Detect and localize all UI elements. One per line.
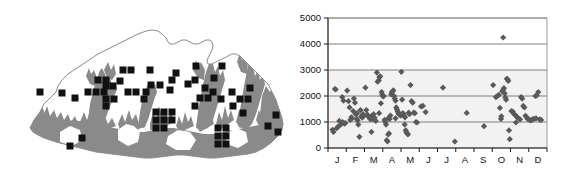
x-tick-label: O: [498, 154, 505, 165]
record-square: [223, 125, 230, 132]
distribution-map-panel: [0, 0, 290, 175]
x-tick-label: J: [426, 154, 431, 165]
record-square: [173, 70, 180, 77]
record-square: [275, 129, 282, 136]
x-tick-label: A: [462, 154, 469, 165]
record-square: [141, 96, 148, 103]
record-square: [161, 117, 168, 124]
record-square: [103, 103, 110, 110]
y-tick-label: 5000: [300, 12, 321, 23]
record-square: [197, 95, 204, 102]
record-square: [133, 89, 140, 96]
record-square: [125, 89, 132, 96]
record-square: [103, 83, 110, 90]
record-square: [219, 63, 226, 70]
x-tick-label: A: [389, 154, 396, 165]
y-tick-label: 2000: [300, 90, 321, 101]
record-square: [192, 77, 199, 84]
record-square: [85, 89, 92, 96]
record-square: [211, 75, 218, 82]
record-square: [245, 96, 252, 103]
record-square: [93, 89, 100, 96]
record-square: [205, 95, 212, 102]
figure-container: 010002000300040005000 JFMAMJJASOND: [0, 0, 562, 175]
elevation-month-scatter-panel: 010002000300040005000 JFMAMJJASOND: [290, 0, 562, 175]
record-square: [72, 95, 79, 102]
record-square: [230, 103, 237, 110]
bhutan-distribution-map: [0, 0, 290, 175]
record-square: [161, 109, 168, 116]
record-square: [120, 67, 127, 74]
record-square: [157, 82, 164, 89]
y-tick-label: 0: [316, 142, 321, 153]
record-square: [143, 89, 150, 96]
elevation-by-month-scatter: 010002000300040005000 JFMAMJJASOND: [290, 0, 562, 175]
record-square: [240, 110, 247, 117]
record-square: [117, 78, 124, 85]
record-square: [169, 117, 176, 124]
record-square: [153, 125, 160, 132]
x-tick-label: S: [480, 154, 486, 165]
record-square: [103, 77, 110, 84]
record-square: [229, 89, 236, 96]
y-tick-label: 4000: [300, 38, 321, 49]
record-square: [153, 117, 160, 124]
x-tick-label: D: [534, 154, 541, 165]
record-square: [185, 81, 192, 88]
record-square: [167, 87, 174, 94]
record-square: [110, 83, 117, 90]
record-square: [192, 103, 199, 110]
record-square: [37, 89, 44, 96]
record-square: [215, 141, 222, 148]
record-square: [237, 96, 244, 103]
record-square: [101, 89, 108, 96]
x-tick-label: F: [352, 154, 358, 165]
record-square: [67, 143, 74, 150]
record-square: [215, 125, 222, 132]
record-square: [169, 77, 176, 84]
record-square: [215, 133, 222, 140]
record-square: [273, 112, 280, 119]
x-tick-label: M: [406, 154, 414, 165]
record-square: [103, 96, 110, 103]
record-square: [59, 90, 66, 97]
record-square: [111, 96, 118, 103]
record-square: [148, 82, 155, 89]
record-square: [265, 123, 272, 130]
record-square: [223, 133, 230, 140]
record-square: [153, 109, 160, 116]
x-tick-label: N: [516, 154, 523, 165]
record-square: [247, 85, 254, 92]
x-tick-label: J: [444, 154, 449, 165]
record-square: [169, 109, 176, 116]
record-square: [202, 85, 209, 92]
record-square: [223, 141, 230, 148]
record-square: [79, 135, 86, 142]
y-tick-label: 1000: [300, 116, 321, 127]
record-square: [147, 67, 154, 74]
record-square: [210, 89, 217, 96]
y-tick-label: 3000: [300, 64, 321, 75]
record-square: [128, 67, 135, 74]
record-square: [95, 77, 102, 84]
x-tick-label: M: [370, 154, 378, 165]
record-square: [193, 63, 200, 70]
x-tick-label: J: [335, 154, 340, 165]
record-square: [218, 96, 225, 103]
record-square: [161, 125, 168, 132]
